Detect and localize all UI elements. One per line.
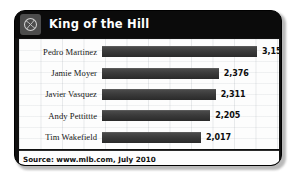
bar-label: Javier Vasquez	[19, 89, 102, 99]
chart-plot-area: Pedro Martinez 3,154 Jamie Moyer 2,376 J…	[19, 39, 279, 149]
bar-track: 2,376	[102, 68, 279, 79]
table-row: Pedro Martinez 3,154	[19, 42, 279, 61]
bar-fill	[102, 132, 201, 143]
card-header: King of the Hill	[15, 11, 281, 38]
bar-value-label: 2,311	[221, 90, 246, 99]
page-title: King of the Hill	[49, 19, 149, 31]
chart-card: King of the Hill Pedro Martinez 3,154 Ja…	[14, 10, 282, 166]
bar-label: Pedro Martinez	[19, 47, 102, 57]
bar-rows: Pedro Martinez 3,154 Jamie Moyer 2,376 J…	[19, 39, 279, 149]
bar-track: 2,205	[102, 110, 279, 121]
table-row: Tim Wakefield 2,017	[19, 128, 279, 147]
table-row: Jamie Moyer 2,376	[19, 64, 279, 83]
bar-value-label: 2,205	[215, 111, 240, 120]
bar-value-label: 2,376	[224, 69, 249, 78]
bar-fill	[102, 110, 210, 121]
bar-track: 3,154	[102, 46, 279, 57]
bar-value-label: 3,154	[262, 47, 279, 56]
bar-label: Jamie Moyer	[19, 68, 102, 78]
bar-fill	[102, 46, 257, 57]
bar-label: Tim Wakefield	[19, 132, 102, 142]
card-footer: Source: www.mlb.com, July 2010	[19, 150, 279, 166]
bar-track: 2,017	[102, 132, 279, 143]
table-row: Andy Pettittte 2,205	[19, 106, 279, 125]
baseball-icon	[20, 14, 41, 35]
bar-track: 2,311	[102, 89, 279, 100]
bar-fill	[102, 68, 219, 79]
bar-label: Andy Pettittte	[19, 111, 102, 121]
table-row: Javier Vasquez 2,311	[19, 85, 279, 104]
source-note: Source: www.mlb.com, July 2010	[19, 155, 156, 164]
bar-value-label: 2,017	[206, 133, 231, 142]
bar-fill	[102, 89, 216, 100]
